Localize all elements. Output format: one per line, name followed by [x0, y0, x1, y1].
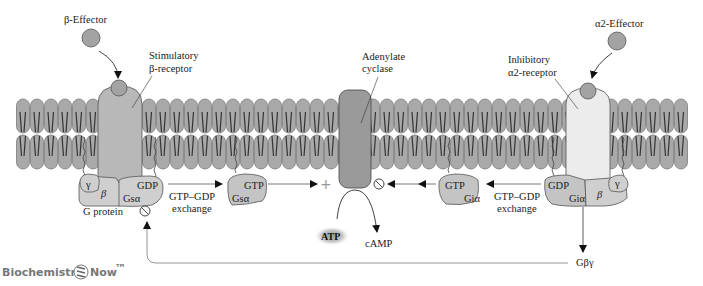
- mid-arrowhead: [418, 180, 426, 188]
- gdp-right-label: GDP: [548, 180, 569, 191]
- biochemistry-now-logo: Biochemistry Now ™: [2, 262, 126, 279]
- dna-helix-icon: [74, 265, 88, 279]
- stim-receptor-label-1: Stimulatory: [149, 50, 199, 61]
- gi-alpha-label: Giα: [569, 193, 586, 204]
- inhib-receptor-label-1: Inhibitory: [508, 54, 551, 65]
- logo-tm: ™: [115, 262, 126, 275]
- beta-label: β: [100, 188, 107, 199]
- right-g-protein: GDP Giα β γ: [545, 175, 628, 206]
- alpha2-bound-ligand: [580, 83, 596, 99]
- atp-to-camp-arrow: [337, 190, 377, 232]
- stim-receptor-label-2: β-receptor: [149, 63, 193, 74]
- feedback-line: [147, 222, 568, 263]
- beta-effector-ligand: [82, 29, 100, 47]
- alpha2-binding-arrow: [592, 53, 612, 78]
- gtp-right-label: GTP: [445, 180, 465, 191]
- alpha2-effector-ligand: [608, 32, 626, 50]
- adenylate-cyclase: [339, 90, 371, 188]
- signaling-diagram: β-Effector Stimulatory β-receptor γ β GD…: [0, 0, 703, 286]
- beta-binding-arrow: [99, 51, 118, 78]
- adenylate-label-1: Adenylate: [362, 51, 405, 62]
- alpha2-effector-label: α2-Effector: [595, 18, 644, 29]
- g-alpha-s-label: Gsα: [123, 193, 141, 204]
- left-exchange-label-1: GTP–GDP: [169, 191, 215, 202]
- right-exchange-label-2: exchange: [497, 203, 537, 214]
- adenylate-label-2: cyclase: [362, 63, 393, 74]
- gs-alpha-active-label: Gsα: [232, 193, 250, 204]
- logo-text-left: Biochemistry: [2, 266, 83, 279]
- g-beta-gamma-label: Gβγ: [576, 257, 594, 268]
- inhibition-symbol-cyclase: [374, 179, 384, 189]
- inhibition-symbol-left: [140, 206, 150, 216]
- logo-text-right: Now: [90, 266, 117, 279]
- receptor-bound-ligand: [111, 80, 127, 96]
- left-g-protein: γ β GDP Gsα: [79, 174, 163, 206]
- g-protein-label: G protein: [83, 206, 124, 217]
- beta-effector-label: β-Effector: [64, 14, 108, 25]
- gdp-label: GDP: [137, 180, 158, 191]
- camp-label: cAMP: [365, 238, 393, 249]
- left-exchange-label-2: exchange: [172, 203, 212, 214]
- gi-alpha-active-label: Giα: [464, 193, 481, 204]
- beta-right-label: β: [596, 189, 603, 200]
- inhib-receptor-label-2: α2-receptor: [508, 67, 557, 78]
- gamma-label: γ: [85, 179, 91, 190]
- right-exchange-label-1: GTP–GDP: [494, 191, 540, 202]
- stimulatory-receptor: [98, 86, 142, 182]
- gtp-left-label: GTP: [244, 180, 264, 191]
- stimulation-plus: +: [320, 176, 332, 192]
- gamma-right-label: γ: [614, 178, 620, 189]
- atp-label: ATP: [321, 231, 340, 242]
